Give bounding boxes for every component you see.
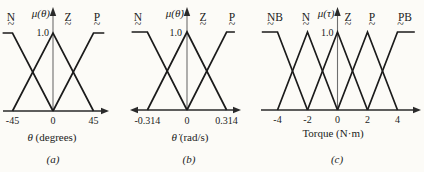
set-label-tilde-icon: ~ [65, 17, 72, 31]
membership-curve-PB [368, 32, 415, 110]
x-axis-left-arrow-icon [130, 107, 138, 113]
membership-curve-N [278, 32, 338, 110]
set-label-tilde-icon: ~ [303, 17, 310, 31]
membership-chart-c: -4-2024μ(τ)1.0NB~N~Z~P~PB~Torque (N·m)(c… [260, 0, 424, 172]
set-label-tilde-icon: ~ [267, 17, 274, 31]
panel-caption: (a) [47, 153, 60, 166]
y-axis-label: μ(θ̇) [165, 7, 185, 20]
membership-curve-N [132, 32, 187, 110]
y-axis-label: μ(θ) [31, 7, 51, 20]
set-label-tilde-icon: ~ [369, 17, 376, 31]
membership-curve-N [3, 33, 53, 111]
y-peak-label: 1.0 [37, 27, 50, 38]
membership-chart-b: -0.31400.314μ(θ̇)1.0N~Z~P~θ̇ (rad/s)(b) [128, 0, 260, 172]
membership-curve-P [187, 32, 235, 110]
membership-curve-P [53, 33, 104, 111]
x-tick-label-0.314: 0.314 [215, 115, 238, 126]
set-label-tilde-icon: ~ [397, 17, 404, 31]
y-peak-label: 1.0 [170, 27, 183, 38]
membership-curve-P [338, 32, 398, 110]
set-label-tilde-icon: ~ [8, 17, 15, 31]
x-tick-label-4: 4 [395, 114, 400, 125]
x-axis-right-arrow-icon [233, 107, 241, 113]
x-axis-right-arrow-icon [413, 107, 421, 113]
y-axis-top-arrow-icon [334, 7, 340, 16]
x-tick-label-45: 45 [89, 115, 99, 126]
set-label-tilde-icon: ~ [94, 17, 101, 31]
x-tick-label-0: 0 [335, 114, 340, 125]
x-axis-label: Torque (N·m) [302, 127, 364, 140]
panel-caption: (b) [183, 153, 196, 166]
x-tick-label--4: -4 [273, 114, 281, 125]
x-tick-label-0: 0 [185, 115, 190, 126]
y-peak-label: 1.0 [321, 27, 334, 38]
fuzzy-membership-figure: -45045μ(θ)1.0N~Z~P~θ (degrees)(a) -0.314… [0, 0, 424, 172]
x-axis-label: θ̇ (rad/s) [172, 131, 209, 144]
x-tick-label--45: -45 [6, 115, 19, 126]
membership-curve-NB [262, 32, 308, 110]
y-axis-top-arrow-icon [184, 7, 190, 16]
x-tick-label-0: 0 [51, 115, 56, 126]
x-tick-label--2: -2 [303, 114, 311, 125]
x-tick-label--0.314: -0.314 [134, 115, 160, 126]
set-label-tilde-icon: ~ [345, 17, 352, 31]
set-label-tilde-icon: ~ [135, 17, 142, 31]
x-axis-label: θ (degrees) [27, 131, 76, 144]
x-axis-right-arrow-icon [101, 108, 109, 114]
panel-caption: (c) [331, 153, 344, 166]
set-label-tilde-icon: ~ [200, 17, 207, 31]
y-axis-label: μ(τ) [317, 7, 335, 20]
membership-chart-a: -45045μ(θ)1.0N~Z~P~θ (degrees)(a) [0, 0, 128, 172]
y-axis-top-arrow-icon [50, 7, 56, 16]
x-tick-label-2: 2 [365, 114, 370, 125]
set-label-tilde-icon: ~ [229, 17, 236, 31]
